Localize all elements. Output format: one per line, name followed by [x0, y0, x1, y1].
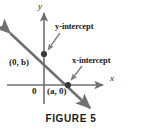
y-axis-label: y: [38, 2, 42, 11]
x-axis-label: x: [110, 74, 114, 83]
y-intercept-pointer: [48, 33, 60, 50]
y-intercept-annotation-label: y-intercept: [55, 22, 93, 31]
y-intercept-point: [41, 51, 47, 57]
origin-label: 0: [32, 87, 37, 96]
x-intercept-annotation-label: x-intercept: [72, 56, 110, 65]
x-intercept-coordinate-label: (a, 0): [47, 87, 67, 96]
y-intercept-coordinate-label: (0, b): [9, 58, 29, 67]
figure-5-container: y x y-intercept x-intercept (0, b) (a, 0…: [0, 0, 142, 129]
x-intercept-pointer: [71, 66, 82, 80]
figure-caption: FIGURE 5: [0, 113, 142, 124]
